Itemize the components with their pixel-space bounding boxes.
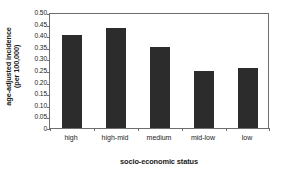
y-axis-tick-label: 0.25 — [22, 68, 47, 75]
y-axis-tick-label: 0.30 — [22, 56, 47, 63]
y-axis-tick-mark — [47, 95, 50, 96]
y-axis-tick-label: 0.50 — [22, 10, 47, 17]
bar — [238, 68, 257, 128]
y-axis-tick-mark — [47, 26, 50, 27]
bar — [106, 28, 125, 128]
y-axis-tick-mark — [47, 37, 50, 38]
y-axis-tick-label: 0.10 — [22, 103, 47, 110]
y-axis-tick-mark — [47, 49, 50, 50]
x-axis-tick-label: low — [242, 133, 253, 142]
bar-chart-figure: age-adjusted incidence (per 100,000) 0.5… — [0, 0, 284, 180]
x-axis-tick-mark — [226, 128, 227, 131]
x-axis-tick-label: medium — [147, 133, 172, 142]
x-axis-tick-mark — [50, 128, 51, 131]
plot-area — [49, 13, 269, 129]
bar — [62, 35, 81, 128]
y-axis-tick-label: 0 — [22, 126, 47, 133]
y-axis-tick-mark — [47, 107, 50, 108]
x-axis-tick-mark — [94, 128, 95, 131]
y-axis-title: age-adjusted incidence (per 100,000) — [2, 0, 24, 132]
y-axis-tick-label: 0.35 — [22, 45, 47, 52]
x-axis-tick-label: high-mid — [102, 133, 129, 142]
bar — [194, 71, 213, 128]
y-axis-tick-label: 0.05 — [22, 114, 47, 121]
y-axis-tick-mark — [47, 84, 50, 85]
y-axis-tick-label: 0.15 — [22, 91, 47, 98]
y-axis-tick-label: 0.20 — [22, 79, 47, 86]
x-axis-tick-mark — [269, 128, 270, 131]
y-axis-tick-mark — [47, 72, 50, 73]
y-axis-title-line-2: (per 100,000) — [13, 27, 21, 105]
y-axis-tick-mark — [47, 14, 50, 15]
x-axis-tick-labels: highhigh-midmediummid-lowlow — [49, 133, 269, 145]
y-axis-tick-mark — [47, 118, 50, 119]
x-axis-title: socio-economic status — [49, 157, 269, 166]
y-axis-tick-label: 0.45 — [22, 21, 47, 28]
x-axis-tick-mark — [182, 128, 183, 131]
x-axis-tick-mark — [138, 128, 139, 131]
y-axis-tick-mark — [47, 60, 50, 61]
y-axis-tick-labels: 0.500.450.400.350.300.250.200.150.100.05… — [22, 13, 47, 129]
bar — [150, 47, 169, 128]
x-axis-tick-label: high — [64, 133, 77, 142]
x-axis-tick-label: mid-low — [191, 133, 215, 142]
y-axis-tick-label: 0.40 — [22, 33, 47, 40]
